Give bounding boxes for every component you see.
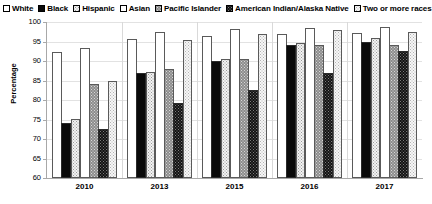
bar xyxy=(380,27,390,178)
legend-swatch-icon xyxy=(226,5,233,12)
group-separator xyxy=(347,22,348,178)
legend-item-asian: Asian xyxy=(120,4,150,13)
group-separator xyxy=(122,22,123,178)
y-tick-label: 90 xyxy=(33,57,41,65)
bar xyxy=(164,69,174,178)
bar xyxy=(202,36,212,178)
y-tick-label: 65 xyxy=(33,155,41,163)
x-tick-label-2013: 2013 xyxy=(122,182,197,192)
legend-item-hispanic: Hispanic xyxy=(73,4,115,13)
legend-label: Black xyxy=(47,4,68,13)
legend-item-two-or-more-races: Two or more races xyxy=(354,4,432,13)
bar xyxy=(173,103,183,178)
y-tick-label: 70 xyxy=(33,135,41,143)
bar xyxy=(239,59,249,178)
bar xyxy=(248,90,258,178)
bar xyxy=(127,39,137,178)
y-axis-ticks: 6065707580859095100 xyxy=(0,0,47,204)
bar xyxy=(258,34,268,178)
bar xyxy=(371,38,381,178)
bar xyxy=(146,72,156,178)
legend-swatch-icon xyxy=(120,5,127,12)
bar xyxy=(183,40,193,178)
bar xyxy=(305,28,315,178)
bar-group-2010 xyxy=(47,22,122,178)
legend-item-pacific-islander: Pacific Islander xyxy=(155,4,221,13)
y-tick-label: 100 xyxy=(28,18,41,26)
bar xyxy=(296,43,306,178)
y-tick-label: 95 xyxy=(33,38,41,46)
bar xyxy=(389,45,399,178)
bar-group-2015 xyxy=(197,22,272,178)
x-axis-line xyxy=(46,178,423,179)
bar xyxy=(80,48,90,178)
x-tick-label-2017: 2017 xyxy=(347,182,422,192)
bar xyxy=(398,51,408,178)
bar xyxy=(61,123,71,178)
bar xyxy=(408,32,418,178)
x-tick-label-2016: 2016 xyxy=(272,182,347,192)
bar xyxy=(136,73,146,178)
bar xyxy=(89,84,99,178)
plot-area xyxy=(47,22,422,178)
bar xyxy=(314,45,324,178)
bar-group-2017 xyxy=(347,22,422,178)
chart-legend: WhiteBlackHispanicAsianPacific IslanderA… xyxy=(3,2,427,15)
bar xyxy=(71,119,81,178)
legend-label: American Indian/Alaska Native xyxy=(235,4,349,13)
bar-group-2013 xyxy=(122,22,197,178)
y-tick-label: 60 xyxy=(33,174,41,182)
bar xyxy=(52,52,62,178)
group-separator xyxy=(272,22,273,178)
legend-label: Asian xyxy=(129,4,150,13)
legend-swatch-icon xyxy=(354,5,361,12)
bar xyxy=(352,33,362,178)
legend-label: Two or more races xyxy=(363,4,432,13)
y-tick-label: 75 xyxy=(33,116,41,124)
x-tick-label-2015: 2015 xyxy=(197,182,272,192)
bar xyxy=(211,61,221,178)
y-tick-label: 85 xyxy=(33,77,41,85)
bar-group-2016 xyxy=(272,22,347,178)
bar xyxy=(286,45,296,178)
bar xyxy=(361,42,371,179)
legend-label: Pacific Islander xyxy=(164,4,221,13)
bar xyxy=(98,129,108,178)
y-tick-label: 80 xyxy=(33,96,41,104)
legend-item-american-indian-alaska-native: American Indian/Alaska Native xyxy=(226,4,349,13)
legend-swatch-icon xyxy=(73,5,80,12)
bar xyxy=(108,81,118,179)
group-separator xyxy=(197,22,198,178)
legend-swatch-icon xyxy=(155,5,162,12)
bar xyxy=(333,30,343,178)
bar xyxy=(221,59,231,178)
x-tick-label-2010: 2010 xyxy=(47,182,122,192)
bar xyxy=(323,73,333,178)
bar xyxy=(277,34,287,178)
bar xyxy=(230,29,240,178)
legend-label: Hispanic xyxy=(82,4,115,13)
bar xyxy=(155,32,165,178)
